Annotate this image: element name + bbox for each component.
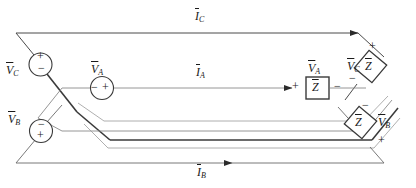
source-vb-plus-sign: +: [37, 129, 44, 141]
lead-vc-upper: [16, 33, 34, 55]
current-label-ib: IB: [197, 166, 206, 178]
load-za-plus-sign: +: [292, 80, 299, 92]
source-label-va: VA: [91, 63, 103, 75]
conductor-inner-rail-upper: [78, 96, 388, 121]
source-vc-minus-sign: −: [38, 62, 45, 74]
source-label-vc: VC: [6, 64, 19, 76]
load-label-vb: VB: [378, 116, 390, 128]
lead-vb-lower: [16, 139, 36, 163]
load-zc-minus-sign: −: [349, 72, 356, 84]
lead-zb-lower: [370, 147, 384, 163]
load-zb-plus-sign: +: [378, 134, 385, 146]
current-label-ia: IA: [196, 66, 205, 78]
load-zc-plus-sign: +: [369, 40, 376, 52]
load-za-minus-sign: −: [334, 80, 341, 92]
lead-vb-upper: [47, 105, 62, 122]
source-label-vb: VB: [8, 113, 20, 125]
load-zb-symbol-label: Z: [355, 116, 362, 128]
load-zb-minus-sign: −: [362, 99, 369, 111]
source-va-plus-sign: +: [102, 81, 109, 93]
load-zc-symbol-label: Z: [365, 60, 372, 72]
lead-zc-lower: [345, 84, 357, 100]
load-za-symbol-label: Z: [312, 81, 319, 93]
lead-zb-upper: [338, 107, 348, 118]
circuit-diagram: IC IA IB VC + − VA − + VB − + VA + − Z V…: [0, 0, 416, 188]
source-va-minus-sign: −: [91, 81, 98, 93]
circuit-schematic-svg: [0, 0, 416, 188]
load-label-va: VA: [308, 62, 320, 74]
current-label-ic: IC: [195, 10, 204, 22]
